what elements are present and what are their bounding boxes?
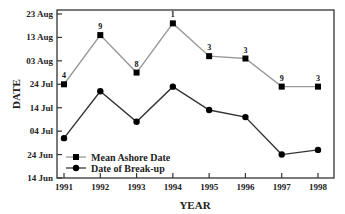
circle-marker-icon [242,114,248,120]
legend-label-ashore: Mean Ashore Date [91,152,171,163]
square-marker-icon [279,84,285,90]
x-axis: 19911992199319941995199619971998 [55,173,328,192]
x-tick-label: 1993 [128,182,147,192]
circle-marker-icon [73,165,79,171]
data-annotation: 3 [243,46,247,55]
square-marker-icon [134,70,140,76]
square-marker-icon [97,32,103,38]
circle-marker-icon [315,147,321,153]
square-marker-icon [315,84,321,90]
square-marker-icon [242,56,248,62]
square-marker-icon [61,81,67,87]
data-annotation: 1 [171,10,175,19]
x-tick-label: 1994 [164,182,183,192]
x-tick-label: 1997 [273,182,292,192]
series-line [64,87,318,155]
circle-marker-icon [133,119,139,125]
data-annotation: 9 [98,22,102,31]
x-axis-title: YEAR [179,199,211,211]
square-marker-icon [170,20,176,26]
y-tick-label: 24 Jul [30,79,54,89]
y-tick-label: 14 Jul [30,103,54,113]
circle-marker-icon [170,83,176,89]
x-tick-label: 1995 [200,182,219,192]
x-tick-label: 1998 [309,182,328,192]
x-tick-label: 1991 [55,182,74,192]
line-chart: 14 Jun24 Jun04 Jul14 Jul24 Jul03 Aug13 A… [0,0,345,214]
y-axis-title: DATE [10,79,22,109]
data-annotation: 3 [207,43,211,52]
circle-marker-icon [279,151,285,157]
x-tick-label: 1996 [236,182,255,192]
series-layer: 49813393 [61,10,321,157]
data-annotation: 8 [135,60,139,69]
legend: Mean Ashore Date Date of Break-up [66,152,171,174]
data-annotation: 3 [316,74,320,83]
y-tick-label: 13 Aug [26,32,53,42]
circle-marker-icon [206,107,212,113]
square-marker-icon [206,53,212,59]
x-tick-label: 1992 [91,182,110,192]
y-tick-label: 23 Aug [26,9,53,19]
legend-label-breakup: Date of Break-up [91,163,165,174]
data-annotation: 4 [62,71,66,80]
y-tick-label: 14 Jun [27,173,53,183]
square-marker-icon [73,154,79,160]
y-tick-label: 03 Aug [26,56,53,66]
circle-marker-icon [61,135,67,141]
y-tick-label: 24 Jun [27,150,53,160]
data-annotation: 9 [280,74,284,83]
y-tick-label: 04 Jul [30,126,54,136]
circle-marker-icon [97,88,103,94]
